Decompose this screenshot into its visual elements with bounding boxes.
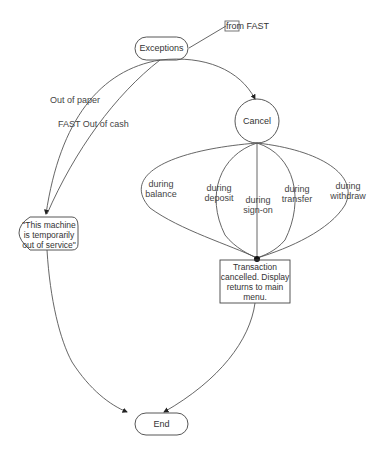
from-fast-label: from FAST	[226, 21, 269, 31]
edge-label-during-balance: during balance	[143, 179, 179, 199]
end-label: End	[135, 419, 188, 429]
edge-label-during-transfer: during transfer	[279, 184, 315, 204]
edge-label-during-withdraw: during withdraw	[328, 181, 368, 201]
cancel-label: Cancel	[235, 116, 279, 126]
edge-label-fast-out-of-cash: FAST Out of cash	[58, 119, 129, 129]
edge-label-out-of-paper: Out of paper	[50, 95, 100, 105]
out-of-service-label: "This machine is temporarily out of serv…	[20, 220, 78, 250]
edge-label-during-deposit: during deposit	[203, 183, 235, 203]
cancelled-label: Transaction cancelled. Display returns t…	[220, 262, 290, 302]
exceptions-label: Exceptions	[135, 43, 188, 53]
edge-label-during-sign-on: during sign-on	[242, 195, 274, 215]
